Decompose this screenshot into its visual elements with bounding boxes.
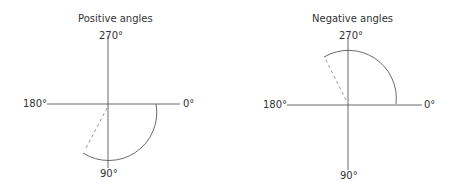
positive-angles-diagram [47,36,180,168]
ray-line [325,58,346,100]
diagram-title: Negative angles [312,13,393,24]
angle-diagrams [0,0,458,194]
diagram-title: Positive angles [78,13,153,24]
label-270: 270° [99,30,123,41]
label-90: 90° [340,170,358,181]
label-270: 270° [339,30,363,41]
label-90: 90° [100,168,118,179]
negative-angles-diagram [287,38,422,170]
ray-line [85,108,107,150]
label-0: 0° [424,99,435,110]
angle-arc [83,104,157,160]
label-180: 180° [23,98,47,109]
label-0: 0° [183,98,194,109]
label-180: 180° [263,99,287,110]
